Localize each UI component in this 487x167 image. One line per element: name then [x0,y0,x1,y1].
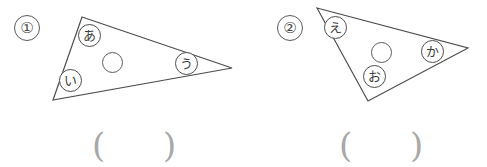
vertex-label-i: い [59,69,82,92]
vertex-label-u: う [175,52,198,75]
vertex-label-o: お [363,65,386,88]
vertex-label-a: あ [78,24,101,47]
vertex-label-ka: か [421,40,444,63]
figure-2: ② え お か ( ) [243,0,487,167]
answer-paren-close-1: ) [163,128,176,162]
answer-paren-close-2: ) [410,128,423,162]
answer-paren-open-1: ( [92,128,105,162]
worksheet-page: ① あ い う ( ) ② え お か ( ) [0,0,487,167]
figure-index-marker-2: ② [277,15,303,41]
inner-circle-2 [371,42,392,63]
vertex-label-e: え [324,16,347,39]
inner-circle-1 [102,52,123,73]
figure-1: ① あ い う ( ) [0,0,243,167]
answer-paren-open-2: ( [339,128,352,162]
figure-index-marker-1: ① [14,15,40,41]
